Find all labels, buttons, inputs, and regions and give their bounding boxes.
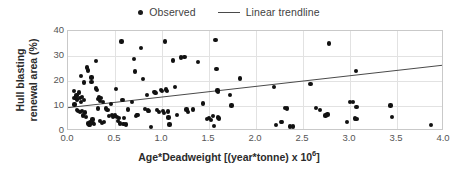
data-point bbox=[122, 116, 126, 120]
x-tick-label: 2.0 bbox=[240, 132, 270, 143]
data-point bbox=[173, 85, 177, 89]
data-point bbox=[166, 109, 170, 113]
data-point bbox=[82, 98, 86, 102]
x-axis-tick-labels: 0.00.51.01.52.02.53.03.54.0 bbox=[67, 132, 443, 146]
data-point bbox=[165, 89, 169, 93]
data-point bbox=[89, 80, 93, 84]
data-point bbox=[274, 123, 278, 127]
data-point bbox=[86, 68, 90, 72]
data-point bbox=[182, 55, 186, 59]
data-point bbox=[133, 69, 137, 73]
y-axis-tick-labels: 010203040 bbox=[44, 0, 64, 172]
data-point bbox=[83, 110, 87, 114]
data-point bbox=[213, 38, 217, 42]
data-point bbox=[388, 103, 392, 107]
data-point bbox=[171, 58, 175, 62]
y-tick-label: 10 bbox=[46, 100, 64, 110]
data-point bbox=[354, 105, 358, 109]
data-point bbox=[114, 87, 118, 91]
data-point bbox=[354, 117, 358, 121]
data-point bbox=[130, 100, 134, 104]
data-point bbox=[351, 100, 355, 104]
data-point bbox=[229, 103, 233, 107]
data-point bbox=[196, 60, 200, 64]
y-tick-label: 20 bbox=[46, 75, 64, 85]
legend-item-observed: Observed bbox=[138, 6, 195, 18]
data-point bbox=[166, 115, 170, 119]
data-point bbox=[153, 91, 157, 95]
data-point bbox=[291, 124, 295, 128]
data-point bbox=[212, 124, 216, 128]
y-tick-label: 40 bbox=[46, 25, 64, 35]
y-axis-title-text: Hull blasting renewal area (%) bbox=[14, 39, 40, 122]
data-point bbox=[139, 46, 143, 50]
data-point bbox=[95, 88, 99, 92]
data-point bbox=[325, 112, 329, 116]
data-point bbox=[89, 75, 93, 79]
x-tick-label: 4.0 bbox=[428, 132, 458, 143]
x-axis-title: Age*Deadweight [(year*tonne) x 106] bbox=[0, 149, 458, 163]
data-point bbox=[92, 122, 96, 126]
x-tick-label: 1.0 bbox=[146, 132, 176, 143]
data-point bbox=[119, 39, 123, 43]
data-point bbox=[105, 108, 109, 112]
legend-label-observed: Observed bbox=[149, 6, 195, 18]
data-point bbox=[238, 76, 242, 80]
data-point bbox=[217, 116, 221, 120]
data-point bbox=[124, 122, 128, 126]
x-tick-label: 0.5 bbox=[99, 132, 129, 143]
data-point bbox=[318, 108, 322, 112]
legend-dot-marker-icon bbox=[138, 10, 143, 15]
data-point bbox=[96, 106, 100, 110]
data-point bbox=[135, 113, 139, 117]
data-point bbox=[216, 90, 220, 94]
x-tick-label: 0.0 bbox=[52, 132, 82, 143]
x-tick-label: 3.0 bbox=[334, 132, 364, 143]
data-point bbox=[79, 74, 83, 78]
data-point bbox=[94, 59, 98, 63]
data-point bbox=[167, 122, 171, 126]
chart-legend: Observed Linear trendline bbox=[0, 2, 458, 22]
data-point bbox=[101, 100, 105, 104]
data-point bbox=[280, 120, 284, 124]
data-point bbox=[272, 85, 276, 89]
data-point bbox=[102, 120, 106, 124]
data-point bbox=[308, 82, 312, 86]
data-point bbox=[354, 69, 358, 73]
x-axis-title-main: Age*Deadweight [(year*tonne) x 10 bbox=[138, 151, 312, 163]
data-point bbox=[147, 109, 151, 113]
data-point bbox=[163, 39, 167, 43]
data-point bbox=[429, 123, 433, 127]
data-point bbox=[109, 102, 113, 106]
data-point bbox=[149, 125, 153, 129]
data-point bbox=[141, 77, 145, 81]
data-points-layer bbox=[68, 31, 442, 129]
x-tick-label: 3.5 bbox=[381, 132, 411, 143]
data-point bbox=[117, 116, 121, 120]
data-point bbox=[209, 118, 213, 122]
scatter-chart-figure: Observed Linear trendline Hull blasting … bbox=[0, 0, 458, 172]
data-point bbox=[191, 107, 195, 111]
legend-item-linear-trendline: Linear trendline bbox=[218, 6, 320, 18]
data-point bbox=[228, 93, 232, 97]
x-axis-title-tail: ] bbox=[316, 151, 320, 163]
data-point bbox=[132, 57, 136, 61]
data-point bbox=[126, 107, 130, 111]
data-point bbox=[186, 110, 190, 114]
data-point bbox=[345, 120, 349, 124]
x-tick-label: 2.5 bbox=[287, 132, 317, 143]
x-tick-label: 1.5 bbox=[193, 132, 223, 143]
data-point bbox=[120, 98, 124, 102]
data-point bbox=[214, 67, 218, 71]
data-point bbox=[285, 106, 289, 110]
data-point bbox=[82, 80, 86, 84]
legend-label-linear-trendline: Linear trendline bbox=[246, 6, 320, 18]
data-point bbox=[390, 115, 394, 119]
data-point bbox=[327, 41, 331, 45]
legend-line-marker-icon bbox=[218, 12, 240, 13]
data-point bbox=[84, 115, 88, 119]
data-point bbox=[175, 113, 179, 117]
data-point bbox=[211, 114, 215, 118]
data-point bbox=[145, 93, 149, 97]
plot-area bbox=[67, 30, 443, 130]
